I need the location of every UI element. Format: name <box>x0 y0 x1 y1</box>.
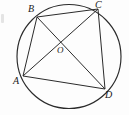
segment-ab <box>23 17 37 76</box>
vertex-label-d: D <box>105 90 112 100</box>
segment-ad <box>23 76 105 89</box>
vertex-label-c: C <box>95 0 102 10</box>
geometry-figure: B C A D O <box>0 0 129 115</box>
scan-artifact <box>1 14 4 23</box>
segment-bd-diagonal <box>37 17 105 89</box>
segment-cd <box>98 9 105 89</box>
vertex-label-o: O <box>57 45 64 55</box>
vertex-label-b: B <box>28 4 34 14</box>
vertex-label-a: A <box>13 76 19 86</box>
